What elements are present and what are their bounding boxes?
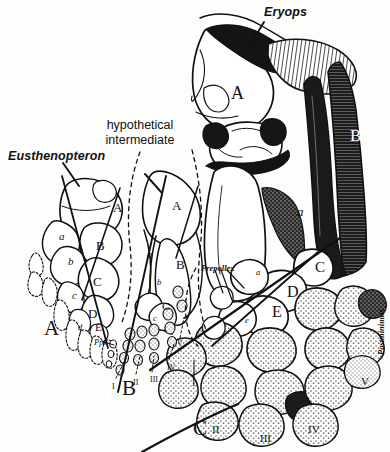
bone-label-a-B: B (96, 239, 105, 252)
digit-c-I: I (192, 378, 195, 388)
bone-label-c-a1: a (297, 205, 304, 218)
postminimus-label: Postminimus (377, 309, 386, 355)
bone-label-c-C: C (315, 260, 325, 275)
bone-label-a-d: d (78, 323, 82, 332)
bone-label-a-D: D (88, 307, 97, 320)
bone-label-b-C: C (162, 301, 169, 312)
bone-label-a-C: C (93, 275, 102, 288)
digit-b-II: II (133, 379, 138, 387)
figure-container: Eusthenopteron hypothetical intermediate… (0, 0, 390, 452)
taxon-label-eusthenopteron: Eusthenopteron (8, 150, 105, 163)
prepollex-label: Prepollex (201, 264, 235, 273)
taxon-label-hypothetical-line2: intermediate (92, 134, 188, 147)
bone-label-b-B: B (176, 258, 185, 271)
bone-label-c-B: B (350, 127, 361, 144)
bone-label-a-c: c (72, 290, 77, 301)
bone-label-b-b: b (157, 278, 161, 287)
digit-b-I: I (112, 383, 115, 391)
bone-label-c-D: D (287, 284, 299, 300)
bone-label-a-a: a (59, 231, 65, 242)
digit-c-V: V (361, 376, 369, 387)
bone-label-b-a: a (147, 249, 153, 260)
digit-b-V: V (177, 340, 183, 348)
digit-b-IV: IV (167, 364, 175, 372)
taxon-label-eryops: Eryops (264, 6, 307, 19)
bone-label-c-e: e (245, 316, 249, 325)
panel-letter-a: A (44, 318, 59, 339)
bone-label-c-a2: a (256, 268, 260, 277)
digit-c-II: II (212, 424, 219, 435)
bone-label-a-b: b (68, 256, 74, 267)
taxon-label-hypothetical-line1: hypothetical (92, 119, 188, 132)
digit-b-III: III (150, 376, 158, 384)
ppx-label: Ppx (94, 338, 107, 347)
bone-label-b-A: A (172, 199, 181, 212)
bone-label-c-A: A (231, 84, 244, 102)
bone-label-a-A: A (113, 201, 122, 214)
bone-label-a-E: E (95, 322, 102, 333)
bone-label-c-E: E (272, 304, 282, 320)
digit-c-IV: IV (308, 424, 320, 435)
bone-label-b-c: c (153, 314, 157, 323)
panel-letter-c: C (193, 418, 207, 439)
digit-c-III: III (260, 433, 271, 444)
